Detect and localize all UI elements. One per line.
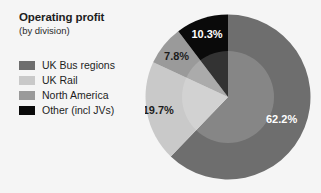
legend-swatch-icon [19,106,35,115]
legend-item-label: UK Bus regions [42,59,115,71]
chart-figure: Operating profit (by division) UK Bus re… [0,0,321,193]
pie-slice-label: 7.8% [164,50,189,62]
legend-item-north-america: North America [19,88,159,102]
pie-chart: 62.2%19.7%7.8%10.3% [145,14,311,180]
legend-item-uk-bus-regions: UK Bus regions [19,58,159,72]
legend-swatch-icon [19,91,35,100]
legend-item-other-incl-jvs: Other (incl JVs) [19,103,159,117]
chart-legend: UK Bus regions UK Rail North America Oth… [19,58,159,118]
pie-slice-label: 62.2% [266,113,297,125]
pie-inner-highlight [182,51,274,143]
pie-chart-svg: 62.2%19.7%7.8%10.3% [145,14,311,180]
legend-item-uk-rail: UK Rail [19,73,159,87]
legend-item-label: North America [42,89,109,101]
pie-slice-label: 10.3% [191,28,222,40]
legend-item-label: Other (incl JVs) [42,104,114,116]
legend-swatch-icon [19,76,35,85]
legend-item-label: UK Rail [42,74,78,86]
pie-slice-label: 19.7% [145,104,174,116]
legend-swatch-icon [19,61,35,70]
